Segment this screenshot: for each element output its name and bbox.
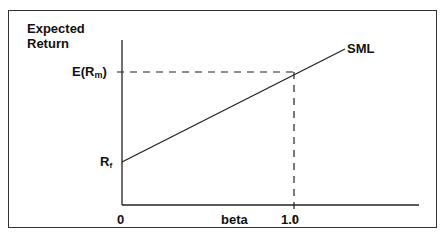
erm-close: )	[102, 64, 106, 79]
y-axis-label-line2: Return	[27, 36, 85, 51]
x-tick-one: 1.0	[281, 212, 299, 227]
sml-label: SML	[347, 41, 374, 56]
y-tick-market-return: E(Rm)	[72, 64, 107, 83]
rf-base: R	[100, 154, 109, 169]
y-axis-label: Expected Return	[27, 21, 85, 51]
erm-base: E(R	[72, 64, 94, 79]
rf-sub: f	[109, 161, 112, 170]
x-tick-zero: 0	[117, 212, 124, 227]
y-tick-risk-free: Rf	[100, 154, 112, 173]
sml-line	[122, 49, 345, 162]
y-axis-label-line1: Expected	[27, 21, 85, 36]
x-axis-label: beta	[221, 212, 248, 227]
